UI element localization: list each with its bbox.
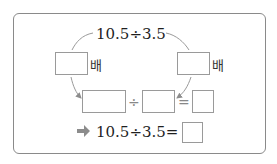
dividend-input[interactable]: [82, 90, 126, 113]
left-down-arrow: [71, 77, 81, 98]
equals-sign: =: [178, 95, 190, 109]
right-arrow-icon: [77, 125, 91, 137]
top-expression: 10.5÷3.5: [96, 26, 166, 42]
left-multiplier-unit: 배: [90, 55, 102, 74]
answer-input[interactable]: [182, 122, 203, 143]
divisor-input[interactable]: [142, 90, 175, 113]
quotient-input[interactable]: [192, 90, 214, 113]
result-expression: 10.5÷3.5=: [96, 124, 178, 140]
top-left-curve: [72, 33, 93, 50]
divide-sign: ÷: [128, 95, 140, 109]
right-multiplier-unit: 배: [212, 55, 224, 74]
top-right-curve: [166, 33, 189, 50]
right-multiplier-input[interactable]: [177, 52, 210, 75]
left-multiplier-input[interactable]: [55, 52, 88, 75]
